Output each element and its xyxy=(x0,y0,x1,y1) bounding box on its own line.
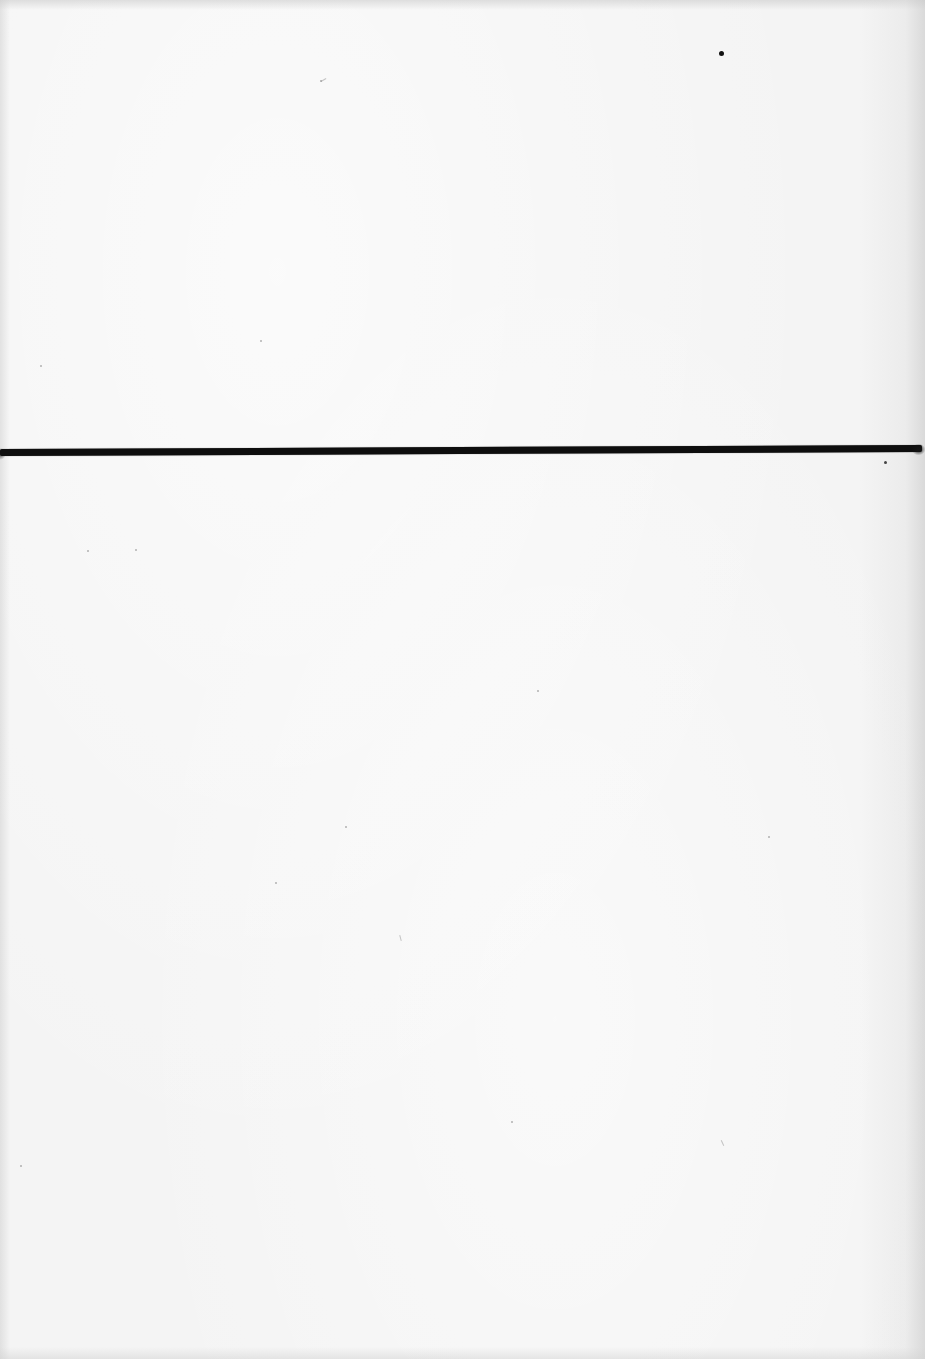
paper-speck xyxy=(511,1121,513,1123)
scanned-page xyxy=(0,0,925,1359)
scan-edge-left xyxy=(0,0,10,1359)
paper-speck xyxy=(345,826,347,828)
scan-edge-right xyxy=(860,0,925,1359)
paper-speck xyxy=(20,1165,22,1167)
scan-edge-bottom xyxy=(0,1347,925,1359)
paper-fiber xyxy=(321,78,327,82)
paper-fiber xyxy=(721,1140,724,1146)
paper-speck xyxy=(260,340,262,342)
paper-speck xyxy=(135,549,137,551)
paper-speck xyxy=(537,690,539,692)
paper-speck xyxy=(275,882,277,884)
ink-speck xyxy=(884,461,887,464)
paper-speck xyxy=(40,365,42,367)
paper-speck xyxy=(87,550,89,552)
scan-edge-top xyxy=(0,0,925,10)
paper-speck xyxy=(768,836,770,838)
ink-speck xyxy=(719,51,724,56)
horizontal-rule xyxy=(0,445,922,456)
rule-right-end-smudge xyxy=(912,444,925,455)
paper-fiber xyxy=(399,935,402,941)
